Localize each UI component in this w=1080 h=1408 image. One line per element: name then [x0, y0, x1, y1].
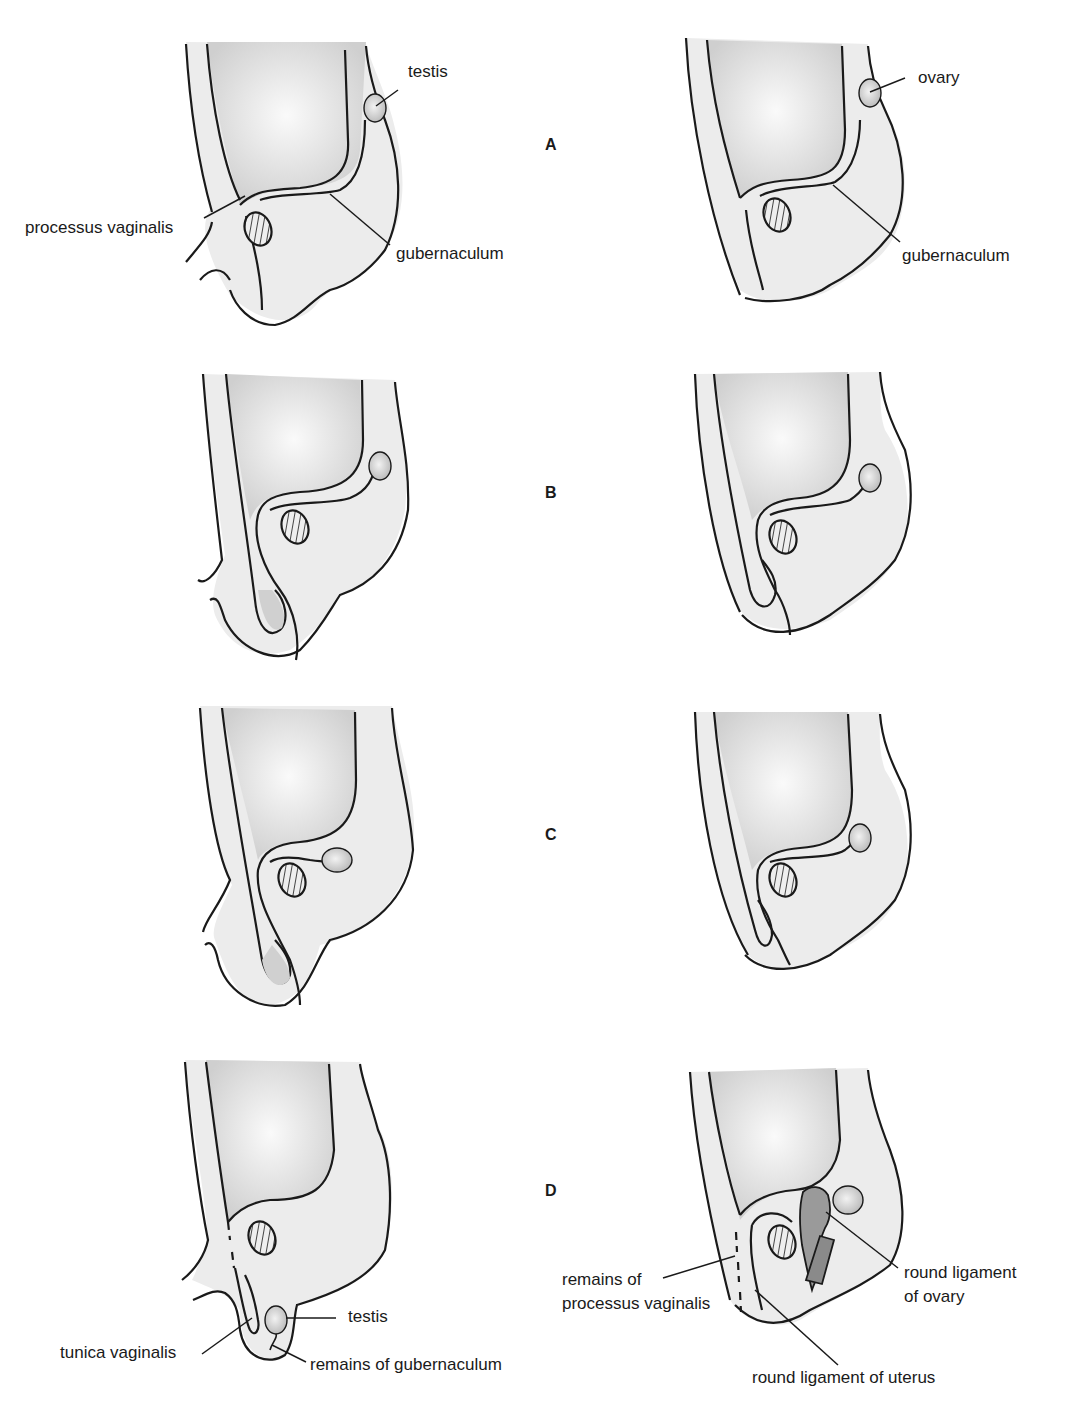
panel-b-male: [198, 374, 408, 660]
panel-c-male: [200, 706, 414, 1006]
stage-label-b: B: [545, 484, 557, 502]
gonadal-descent-diagram: [0, 0, 1080, 1408]
label-processus-vaginalis-a: processus vaginalis: [25, 218, 173, 238]
panel-b-female: [695, 372, 911, 635]
label-round-ligament-ovary-line1: round ligament: [904, 1263, 1016, 1283]
label-round-ligament-uterus: round ligament of uterus: [752, 1368, 935, 1388]
panel-a-female: [686, 38, 905, 301]
panel-c-female: [695, 712, 911, 969]
stage-label-c: C: [545, 826, 557, 844]
label-remains-of-gubernaculum: remains of gubernaculum: [310, 1355, 502, 1375]
label-testis-d: testis: [348, 1307, 388, 1327]
stage-label-d: D: [545, 1182, 557, 1200]
label-gubernaculum-a-male: gubernaculum: [396, 244, 504, 264]
label-remains-of-pv-line1: remains of: [562, 1270, 641, 1290]
label-gubernaculum-a-female: gubernaculum: [902, 246, 1010, 266]
label-ovary-a: ovary: [918, 68, 960, 88]
stage-label-a: A: [545, 136, 557, 154]
label-round-ligament-ovary-line2: of ovary: [904, 1287, 964, 1307]
panel-d-female: [690, 1068, 903, 1325]
label-remains-of-pv-line2: processus vaginalis: [562, 1294, 710, 1314]
label-tunica-vaginalis: tunica vaginalis: [60, 1343, 176, 1363]
label-testis-a: testis: [408, 62, 448, 82]
panel-a-male: [186, 42, 403, 325]
